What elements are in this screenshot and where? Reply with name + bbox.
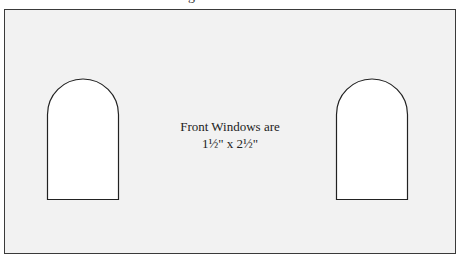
window-size-caption: Front Windows are 1½" x 2½" <box>150 118 310 152</box>
caption-line-2: 1½" x 2½" <box>150 135 310 152</box>
left-window <box>48 79 119 200</box>
caption-line-1: Front Windows are <box>150 118 310 135</box>
right-window <box>337 79 408 200</box>
